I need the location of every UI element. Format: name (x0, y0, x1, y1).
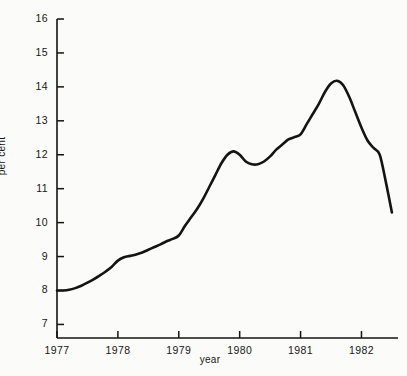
x-tick-label: 1978 (97, 344, 139, 356)
y-tick-label: 11 (26, 182, 48, 194)
data-series-line (57, 81, 392, 291)
plot-area (0, 0, 407, 376)
x-axis-ticks (57, 331, 361, 338)
x-axis-label: year (170, 354, 250, 365)
y-tick-label: 10 (26, 216, 48, 228)
x-tick-label: 1977 (36, 344, 78, 356)
y-tick-label: 14 (26, 80, 48, 92)
y-tick-label: 7 (26, 317, 48, 329)
y-tick-label: 15 (26, 46, 48, 58)
y-tick-label: 12 (26, 148, 48, 160)
y-axis-ticks (57, 19, 64, 324)
x-tick-label: 1981 (280, 344, 322, 356)
y-tick-label: 9 (26, 250, 48, 262)
line-chart: 78910111213141516 1977197819791980198119… (0, 0, 407, 376)
y-tick-label: 16 (26, 12, 48, 24)
y-tick-label: 8 (26, 283, 48, 295)
y-tick-label: 13 (26, 114, 48, 126)
y-axis-label: per cent (0, 126, 7, 186)
x-tick-label: 1982 (340, 344, 382, 356)
